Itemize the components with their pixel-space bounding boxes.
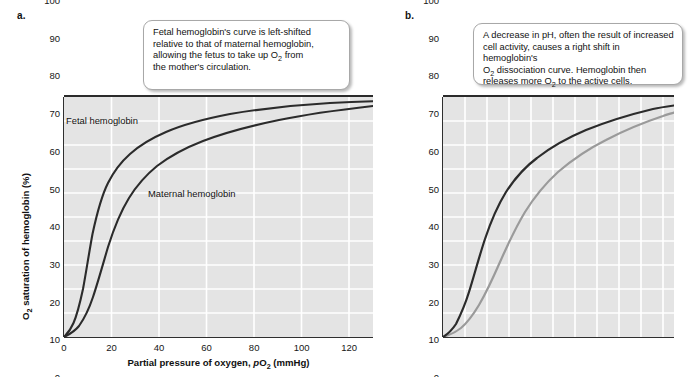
curve-label-fetal-hemoglobin: Fetal hemoglobin — [66, 115, 138, 126]
callout-b: A decrease in pH, often the result of in… — [473, 23, 683, 85]
y-tick: 90 — [49, 32, 60, 43]
y-tick: 60 — [49, 145, 60, 156]
callout-a-line-2: relative to that of maternal hemoglobin, — [153, 39, 341, 51]
y-tick: 0 — [55, 372, 60, 377]
x-axis-line-b — [443, 337, 674, 338]
y-tick: 10 — [428, 334, 439, 345]
y-tick: 30 — [49, 258, 60, 269]
callout-b-line-1: A decrease in pH, often the result of in… — [483, 30, 674, 42]
y-tick: 50 — [49, 183, 60, 194]
plot-background-b — [443, 97, 674, 337]
y-tick: 0 — [434, 372, 439, 377]
curve-maternal-hemoglobin — [64, 106, 373, 337]
plot-area-b — [443, 97, 674, 337]
x-tick: 80 — [249, 342, 260, 353]
panel-b-label: b. — [405, 10, 414, 21]
x-axis-title-a: Partial pressure of oxygen, pO2 (mmHg) — [64, 357, 373, 368]
curves-b — [443, 97, 674, 337]
y-tick: 30 — [428, 258, 439, 269]
x-tick: 100 — [294, 342, 310, 353]
curves-a — [64, 97, 373, 337]
callout-a-line-1: Fetal hemoglobin's curve is left-shifted — [153, 27, 341, 39]
x-axis-ticks-a: 0 20 40 60 80 100 120 — [64, 340, 373, 356]
y-tick: 90 — [428, 32, 439, 43]
plot-top-border-b — [443, 95, 674, 97]
y-tick: 60 — [428, 145, 439, 156]
x-tick: 0 — [61, 342, 66, 353]
y-tick: 50 — [428, 183, 439, 194]
x-tick: 20 — [106, 342, 117, 353]
plot-top-border-a — [64, 95, 373, 97]
panel-a-label: a. — [17, 10, 26, 21]
oxygen-dissociation-figure: a. Fetal hemoglobin's curve is left-shif… — [0, 0, 694, 377]
y-tick: 20 — [49, 296, 60, 307]
y-tick: 40 — [49, 221, 60, 232]
panel-a: a. Fetal hemoglobin's curve is left-shif… — [0, 0, 400, 377]
y-tick: 80 — [428, 70, 439, 81]
callout-b-line-3: O2 dissociation curve. Hemoglobin then — [483, 65, 674, 77]
curve-label-maternal-hemoglobin: Maternal hemoglobin — [148, 188, 236, 199]
x-axis-line-a — [64, 337, 373, 338]
y-tick: 70 — [49, 108, 60, 119]
y-tick: 100 — [423, 0, 439, 6]
y-axis-line-a — [63, 97, 64, 337]
y-tick: 100 — [44, 0, 60, 6]
y-tick: 40 — [428, 221, 439, 232]
callout-a: Fetal hemoglobin's curve is left-shifted… — [143, 20, 350, 90]
callout-a-line-4: the mother's circulation. — [153, 62, 341, 74]
y-axis-title-a: O2 saturation of hemoglobin (%) — [20, 173, 31, 320]
x-tick: 120 — [341, 342, 357, 353]
y-tick: 80 — [49, 70, 60, 81]
y-tick: 20 — [428, 296, 439, 307]
callout-b-line-4: releases more O2 to the active cells. — [483, 76, 674, 88]
y-axis-ticks-b: 100 90 80 70 60 50 40 30 20 10 0 — [415, 0, 439, 377]
x-tick: 40 — [154, 342, 165, 353]
callout-b-line-2: cell activity, causes a right shift in h… — [483, 42, 674, 65]
x-tick: 60 — [201, 342, 212, 353]
curve-ph-7-4 — [443, 106, 674, 338]
y-axis-ticks-a: 100 90 80 70 60 50 40 30 20 10 0 — [36, 0, 60, 377]
plot-background-a — [64, 97, 373, 337]
y-tick: 70 — [428, 108, 439, 119]
curve-ph-7-2 — [443, 113, 674, 338]
plot-area-a — [64, 97, 373, 337]
callout-a-line-3: allowing the fetus to take up O2 from — [153, 50, 341, 62]
y-axis-line-b — [442, 97, 443, 337]
y-tick: 10 — [49, 334, 60, 345]
